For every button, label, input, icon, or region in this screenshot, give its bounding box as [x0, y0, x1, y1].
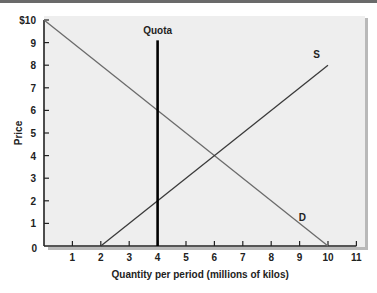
x-tick-label: 6 [212, 252, 218, 263]
annotation-s: S [313, 49, 320, 60]
x-tick-label: 4 [155, 252, 161, 263]
curves [44, 20, 328, 246]
demand-curve [44, 20, 328, 246]
x-tick-label: 1 [70, 252, 76, 263]
y-tick-label: 5 [30, 128, 36, 139]
x-tick-label: 11 [351, 252, 362, 263]
x-tick-label: 8 [268, 252, 274, 263]
y-tick-label: 4 [30, 151, 36, 162]
annotation-d: D [299, 212, 306, 223]
y-tick-label: 6 [30, 105, 36, 116]
x-tick-label: 5 [183, 252, 189, 263]
y-tick-label: 2 [30, 196, 36, 207]
x-axis-title: Quantity per period (millions of kilos) [112, 269, 289, 280]
y-axis-title: Price [13, 120, 24, 145]
supply-demand-chart: 12345678910110123456789$10Quantity per p… [0, 0, 377, 293]
x-tick-label: 3 [126, 252, 132, 263]
y-tick-label: 7 [30, 83, 36, 94]
labels: 12345678910110123456789$10Quantity per p… [13, 15, 362, 280]
annotation-quota: Quota [143, 25, 172, 36]
y-tick-label: $10 [19, 15, 36, 26]
axes [44, 20, 356, 246]
x-tick-label: 7 [240, 252, 246, 263]
y-tick-label: 8 [30, 60, 36, 71]
x-tick-label: 2 [98, 252, 104, 263]
x-tick-label: 10 [322, 252, 334, 263]
y-tick-label: 9 [30, 38, 36, 49]
y-tick-label: 1 [30, 218, 36, 229]
y-tick-label: 3 [30, 173, 36, 184]
y-tick-label: 0 [31, 243, 37, 254]
x-tick-label: 9 [297, 252, 303, 263]
